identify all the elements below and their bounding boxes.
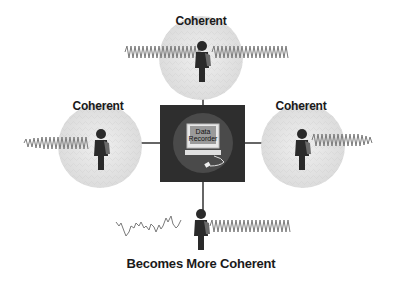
label-right: Coherent <box>275 99 326 113</box>
label-top: Coherent <box>175 14 226 28</box>
recorder-title: Data Recorder <box>188 128 218 142</box>
recorder-title-line1: Data <box>188 128 218 135</box>
label-left: Coherent <box>72 99 123 113</box>
label-bottom: Becomes More Coherent <box>127 256 276 271</box>
coherence-diagram: Data Recorder Coherent Coherent Coherent… <box>0 0 406 284</box>
recorder-title-line2: Recorder <box>188 135 218 142</box>
person-icon-bottom <box>194 209 210 250</box>
diagram-graphics <box>0 0 406 284</box>
computer-icon <box>173 113 233 173</box>
